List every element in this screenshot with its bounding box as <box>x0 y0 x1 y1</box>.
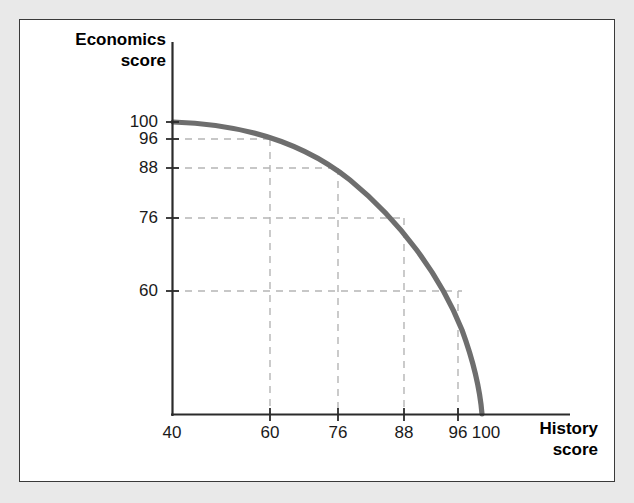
y-tick-label-88: 88 <box>104 158 158 178</box>
y-axis-title: Economics score <box>36 30 166 71</box>
x-axis-title: History score <box>494 419 598 460</box>
gridlines-vertical <box>270 139 458 414</box>
y-tick-label-76: 76 <box>104 208 158 228</box>
gridlines-horizontal <box>172 139 462 291</box>
ppf-curve <box>173 122 482 414</box>
x-tick-label-88: 88 <box>382 423 426 443</box>
x-tick-label-40: 40 <box>150 423 194 443</box>
x-tick-label-60: 60 <box>248 423 292 443</box>
chart-figure: Economics score History score 100 96 88 … <box>0 0 634 503</box>
x-tick-label-100: 100 <box>464 423 508 443</box>
y-tick-label-60: 60 <box>104 281 158 301</box>
x-tick-label-76: 76 <box>316 423 360 443</box>
y-tick-label-96: 96 <box>104 129 158 149</box>
